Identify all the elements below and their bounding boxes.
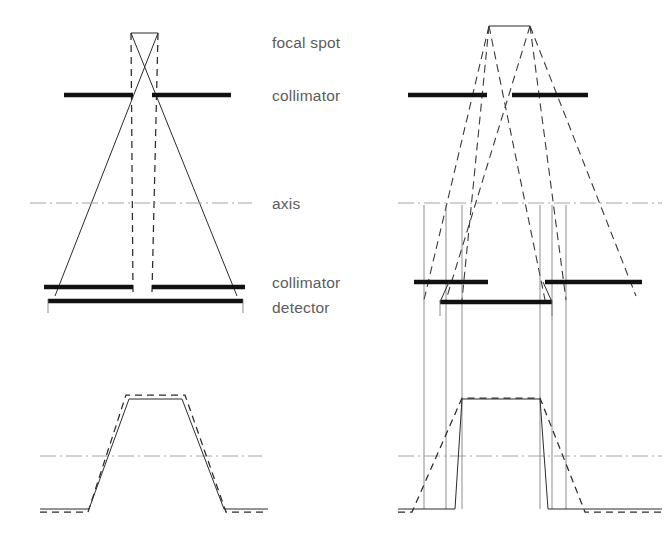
right-detector-riser-left [440, 282, 449, 302]
label-collimator-bottom: collimator [272, 274, 340, 291]
left-solid-ray-a [55, 33, 158, 296]
left-dashed-ray-b [152, 33, 158, 292]
right-dashed-ray-2 [462, 26, 489, 300]
left-solid-ray-b [131, 33, 237, 296]
label-collimator-top: collimator [272, 87, 340, 104]
label-detector: detector [272, 299, 330, 316]
right-panel [398, 26, 662, 512]
left-profile-solid-curve [40, 399, 268, 509]
right-dashed-ray-1 [424, 26, 489, 300]
left-dashed-ray-a [131, 33, 133, 292]
radiography-collimator-diagram: focal spot collimator axis collimator de… [0, 0, 669, 547]
left-panel [30, 33, 268, 512]
right-dashed-ray-5 [530, 26, 566, 300]
right-profile-dashed-curve [398, 398, 662, 512]
right-dashed-ray-4 [446, 26, 530, 300]
right-dashed-ray-6 [530, 26, 636, 296]
left-profile-dashed-curve [40, 395, 268, 512]
label-column: focal spot collimator axis collimator de… [272, 34, 341, 316]
label-axis: axis [272, 195, 300, 212]
label-focal-spot: focal spot [272, 34, 341, 51]
